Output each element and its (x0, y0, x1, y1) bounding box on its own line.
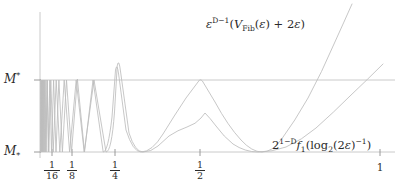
curve-lower-exponent: 1−D (279, 137, 296, 146)
curve-lower-inner-two: 2 (337, 138, 344, 152)
curve-lower-inverse-exponent: −1 (355, 137, 366, 146)
curve-upper-label: εD−1(VFib(ε) + 2ε) (206, 19, 305, 31)
curve-lower-label: 21−Df1(log2(2ε)−1) (272, 140, 371, 152)
y-label-m-lower: M* (4, 145, 20, 157)
curve-lower-close-paren: ) (367, 138, 372, 152)
curve-upper-V-subscript: Fib (242, 24, 255, 33)
x-tick-1-2-denominator: 2 (195, 171, 205, 181)
y-label-m-lower-glyph: M (4, 144, 16, 158)
x-tick-label-1-2: 1 2 (195, 160, 205, 181)
curve-lower-log: log (310, 138, 328, 152)
x-tick-1-4-denominator: 4 (110, 171, 120, 181)
y-label-m-upper: M* (4, 73, 20, 85)
curve-upper-plus-two: + 2 (270, 17, 294, 31)
x-tick-1-8-denominator: 8 (67, 171, 77, 181)
x-tick-label-1-4: 1 4 (110, 160, 120, 181)
curve-upper-V: V (234, 17, 242, 31)
y-label-m-lower-script: * (16, 151, 20, 160)
x-tick-1-16-denominator: 16 (44, 171, 60, 181)
curve-upper-exponent: D−1 (212, 16, 229, 25)
x-tick-1-value: 1 (377, 161, 384, 173)
curve-f1-log2 (41, 63, 383, 152)
y-label-m-upper-script: * (16, 71, 20, 80)
figure-root: εD−1(VFib(ε) + 2ε) 21−Df1(log2(2ε)−1) M*… (0, 0, 402, 184)
plot-canvas (0, 0, 402, 184)
x-tick-label-1-8: 1 8 (67, 160, 77, 181)
x-tick-label-1-16: 1 16 (44, 160, 60, 181)
x-tick-label-1: 1 (377, 162, 384, 173)
curve-upper-close-paren: ) (300, 17, 305, 31)
y-label-m-upper-glyph: M (4, 72, 16, 86)
